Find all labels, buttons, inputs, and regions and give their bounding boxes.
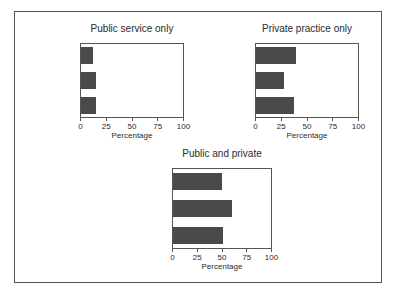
x-tick: [246, 249, 247, 252]
x-tick: [183, 118, 184, 121]
chart-title: Public and private: [172, 148, 272, 159]
x-tick: [157, 118, 158, 121]
bar-appointment: [81, 72, 96, 89]
x-axis-label: Percentage: [172, 262, 272, 271]
x-tick-label: 100: [352, 122, 365, 131]
plot-area: [172, 168, 272, 249]
x-tick-label: 75: [242, 253, 251, 262]
plot-area: [80, 43, 184, 118]
x-tick-label: 50: [218, 253, 227, 262]
x-tick-label: 75: [328, 122, 337, 131]
chart-title: Private practice only: [255, 23, 359, 34]
x-tick-label: 0: [170, 253, 174, 262]
bar-election: [81, 97, 96, 114]
plot-area: [255, 43, 359, 118]
bar-appointment: [173, 200, 232, 217]
bar-merit: [173, 173, 222, 190]
x-tick: [132, 118, 133, 121]
x-tick: [172, 249, 173, 252]
bar-merit: [81, 47, 93, 64]
x-tick-label: 50: [303, 122, 312, 131]
x-tick-label: 25: [102, 122, 111, 131]
x-tick: [271, 249, 272, 252]
bar-appointment: [256, 72, 284, 89]
x-tick: [255, 118, 256, 121]
x-tick: [358, 118, 359, 121]
x-tick: [281, 118, 282, 121]
x-axis-label: Percentage: [255, 131, 359, 140]
x-tick-label: 25: [277, 122, 286, 131]
bar-election: [256, 97, 294, 114]
x-tick-label: 75: [153, 122, 162, 131]
x-axis-label: Percentage: [80, 131, 184, 140]
bar-merit: [256, 47, 296, 64]
x-tick: [197, 249, 198, 252]
x-tick-label: 25: [193, 253, 202, 262]
chart-title: Public service only: [80, 23, 184, 34]
x-tick: [222, 249, 223, 252]
x-tick-label: 0: [78, 122, 82, 131]
x-tick: [106, 118, 107, 121]
x-tick: [80, 118, 81, 121]
x-tick: [332, 118, 333, 121]
x-tick-label: 100: [265, 253, 278, 262]
x-tick: [307, 118, 308, 121]
x-tick-label: 100: [177, 122, 190, 131]
x-tick-label: 0: [253, 122, 257, 131]
x-tick-label: 50: [128, 122, 137, 131]
bar-election: [173, 227, 223, 244]
